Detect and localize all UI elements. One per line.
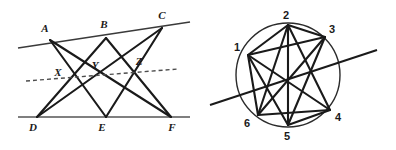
label-point-c: C [158, 9, 166, 21]
label-point-f: F [167, 121, 176, 133]
label-point-1: 1 [234, 41, 240, 53]
label-point-5: 5 [284, 130, 290, 142]
label-point-e: E [97, 121, 105, 133]
label-point-3: 3 [329, 23, 335, 35]
label-point-4: 4 [335, 111, 342, 123]
label-point-2: 2 [283, 9, 289, 21]
label-point-d: D [28, 121, 37, 133]
label-point-6: 6 [244, 117, 250, 129]
label-point-z: Z [135, 55, 143, 67]
label-point-a: A [40, 22, 48, 34]
geometry-figure-canvas: A B C D E F X Y Z 1 2 3 4 5 6 [0, 0, 396, 150]
label-point-x: X [53, 66, 62, 78]
label-point-b: B [99, 18, 107, 30]
